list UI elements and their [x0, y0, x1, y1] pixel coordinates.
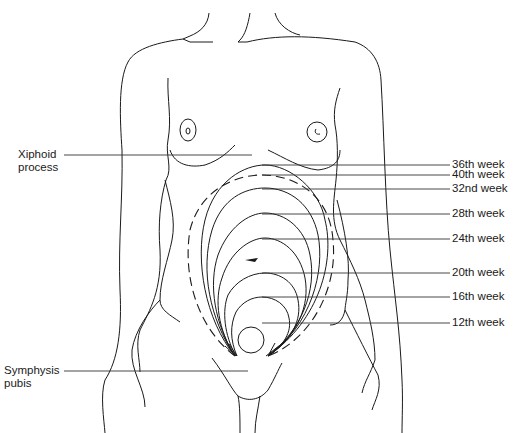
breasts — [170, 119, 340, 170]
week-label-32: 32nd week — [452, 182, 508, 195]
torso-outline — [103, 37, 403, 433]
week-label-20: 20th week — [452, 266, 504, 279]
xiphoid-process-label: Xiphoid process — [18, 148, 58, 174]
fundus-curves — [188, 165, 333, 356]
umbilicus — [245, 258, 258, 262]
week-label-12: 12th week — [452, 316, 504, 329]
xiphoid-line1: Xiphoid — [18, 148, 58, 161]
curve-36th-week — [201, 165, 328, 356]
symphysis-line1: Symphysis — [4, 364, 60, 377]
week-label-28: 28th week — [452, 207, 504, 220]
week-label-40: 40th week — [452, 168, 504, 181]
week-label-16: 16th week — [452, 290, 504, 303]
curve-12th-week — [238, 327, 264, 353]
neck-outline — [183, 13, 300, 42]
symphysis-line2: pubis — [4, 377, 60, 390]
pelvis-outline — [212, 358, 282, 433]
pregnancy-fundal-height-diagram — [0, 0, 519, 433]
symphysis-pubis-label: Symphysis pubis — [4, 364, 60, 390]
week-label-24: 24th week — [452, 232, 504, 245]
xiphoid-line2: process — [18, 161, 58, 174]
